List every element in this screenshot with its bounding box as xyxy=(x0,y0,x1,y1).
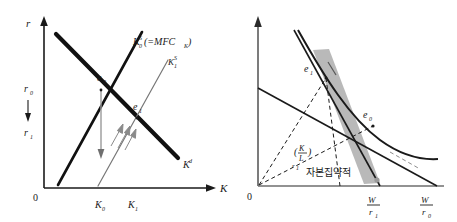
left-y-tick-r0: r 0 xyxy=(24,83,33,96)
klr-numerator: K xyxy=(298,144,305,153)
w-r0-denominator: r xyxy=(422,207,426,217)
klr-open-paren: ( xyxy=(294,146,298,158)
left-origin-label: 0 xyxy=(33,192,38,203)
label-capital-supply-0: K 0 S (=MFC K ) xyxy=(132,35,192,49)
left-x-tick-k1-sub: 1 xyxy=(135,206,138,212)
label-tangency-0: e 0 xyxy=(363,109,372,122)
right-panel-svg: 0 e 1 e 0 ( K L ) r 1 자본집약적 xyxy=(230,0,457,222)
right-y-axis xyxy=(254,16,262,186)
klr-sub-sub: 1 xyxy=(296,165,299,171)
label-e1-sub: 1 xyxy=(139,108,142,114)
label-supply0-sup: S xyxy=(139,35,142,41)
label-right-e1-sub: 1 xyxy=(310,70,313,76)
label-supply1-sup: S xyxy=(174,55,177,61)
label-demand-sup: d xyxy=(189,158,193,164)
adjustment-arrows xyxy=(111,124,136,150)
left-x-axis xyxy=(44,184,216,192)
left-x-tick-k0: K 0 xyxy=(94,199,105,212)
left-y-axis xyxy=(40,16,48,188)
isoquant-curve xyxy=(298,30,438,159)
left-y-tick-r1-sub: 1 xyxy=(30,134,33,140)
w-r1-denominator-sub: 1 xyxy=(375,213,378,219)
label-e0-main: e xyxy=(97,72,102,83)
panel-capital-market: r K 0 r 0 r 1 K 0 xyxy=(0,0,230,222)
curve-capital-supply-1 xyxy=(98,60,168,186)
label-tangency-1: e 1 xyxy=(304,63,313,76)
left-y-axis-label: r xyxy=(26,17,31,29)
label-e0-sub: 0 xyxy=(103,79,106,85)
point-equilibrium-1 xyxy=(136,117,139,120)
w-r0-denominator-sub: 0 xyxy=(428,213,431,219)
panel-isoquant-isocost: 0 e 1 e 0 ( K L ) r 1 자본집약적 xyxy=(230,0,457,222)
left-y-tick-r1-main: r xyxy=(24,127,28,138)
klr-close-paren: ) xyxy=(307,146,312,158)
right-origin-label: 0 xyxy=(247,191,252,202)
w-r0-numerator: W xyxy=(421,195,430,205)
label-supply0-sub: 0 xyxy=(139,43,142,49)
left-y-tick-r0-sub: 0 xyxy=(30,90,33,96)
label-capital-intensive-note: 자본집약적 xyxy=(306,167,351,178)
klr-denominator: L xyxy=(298,154,304,163)
label-supply1-sub: 1 xyxy=(174,63,177,69)
label-capital-demand: K d xyxy=(182,158,193,170)
left-y-tick-r1: r 1 xyxy=(24,127,33,140)
left-x-tick-k1: K 1 xyxy=(127,199,138,212)
right-x-tick-w-over-r0: W r 0 xyxy=(420,195,433,219)
point-axis-intercept xyxy=(374,177,379,182)
point-tangency-1 xyxy=(325,77,328,80)
label-right-e0-sub: 0 xyxy=(369,116,372,122)
right-x-tick-w-over-r1: W r 1 xyxy=(367,195,380,219)
left-x-tick-k0-sub: 0 xyxy=(102,206,105,212)
point-equilibrium-0 xyxy=(100,89,103,92)
w-r1-numerator: W xyxy=(368,195,377,205)
label-supply0-tail: (=MFC xyxy=(144,36,176,48)
figure-root: r K 0 r 0 r 1 K 0 xyxy=(0,0,457,222)
curve-capital-demand xyxy=(56,34,178,158)
left-y-tick-r0-main: r xyxy=(24,83,28,94)
label-supply0-close: ) xyxy=(187,36,192,48)
label-right-e1-main: e xyxy=(304,63,309,74)
label-e1-main: e xyxy=(133,101,138,112)
y-shift-arrow xyxy=(25,100,31,122)
label-capital-supply-1: K 1 S xyxy=(167,55,177,69)
point-tangency-0 xyxy=(371,124,374,127)
w-r1-denominator: r xyxy=(369,207,373,217)
label-right-e0-main: e xyxy=(363,109,368,120)
left-panel-svg: r K 0 r 0 r 1 K 0 xyxy=(0,0,230,222)
left-x-axis-label: K xyxy=(219,182,228,194)
klr-sub-main: r xyxy=(292,162,295,170)
